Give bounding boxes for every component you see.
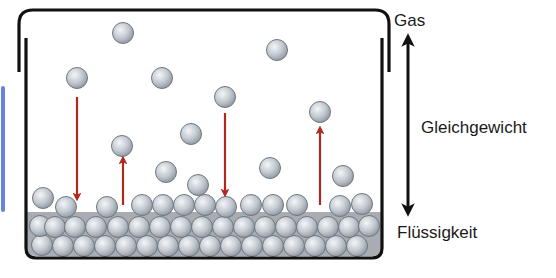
gas-particle [215,87,236,108]
liquid-particle [221,236,242,257]
liquid-particle [116,236,137,257]
liquid-particle [255,217,276,238]
liquid-particle [284,236,305,257]
liquid-particle [200,236,221,257]
liquid-particle [65,217,86,238]
liquid-particle [347,236,368,257]
gas-particle [181,124,202,145]
liquid-label: Flüssigkeit [397,224,477,241]
liquid-particle [263,236,284,257]
liquid-particles-middle-row [30,216,380,238]
liquid-particle [305,236,326,257]
liquid-particle [158,236,179,257]
liquid-surface-particle [195,195,216,216]
liquid-particle [150,217,171,238]
gas-particle [188,175,209,196]
liquid-particle [137,236,158,257]
liquid-particle [359,216,380,237]
liquid-particle [318,217,339,238]
gas-particle [156,162,177,183]
liquid-surface-particle [241,195,262,216]
liquid-surface-particle [330,196,351,217]
liquid-surface-particle [263,195,284,216]
equilibrium-label: Gleichgewicht [421,119,527,136]
liquid-particle [53,236,74,257]
liquid-particle [108,217,129,238]
liquid-surface-particle [153,195,174,216]
gas-particle [260,158,281,179]
liquid-surface-particle [216,197,237,218]
liquid-surface-particle [56,197,77,218]
liquid-surface-particle [33,188,54,209]
liquid-particle [74,236,95,257]
liquid-particle [129,217,150,238]
liquid-particle [234,217,255,238]
gas-particle [267,40,288,61]
gas-particle [67,68,88,89]
liquid-surface-particle [352,194,373,215]
liquid-particle [276,217,297,238]
container-lid [19,10,389,72]
liquid-particle [192,217,213,238]
liquid-particle [45,217,66,238]
liquid-particle [86,217,107,238]
liquid-surface-particle [287,195,308,216]
liquid-particle [179,236,200,257]
liquid-particle [242,236,263,257]
liquid-particle [297,217,318,238]
liquid-particle [213,217,234,238]
liquid-particle [326,236,347,257]
gas-particles [67,23,354,196]
gas-particle [310,102,331,123]
liquid-particle [339,217,360,238]
liquid-surface-particle [132,195,153,216]
liquid-particle [171,217,192,238]
liquid-particle [95,236,116,257]
gas-particle [333,166,354,187]
gas-label: Gas [394,12,425,29]
gas-particle [152,68,173,89]
gas-particle [113,23,134,44]
liquid-surface-particle [174,195,195,216]
gas-particle [112,136,133,157]
liquid-surface-particle [97,197,118,218]
liquid-particle [32,235,53,256]
